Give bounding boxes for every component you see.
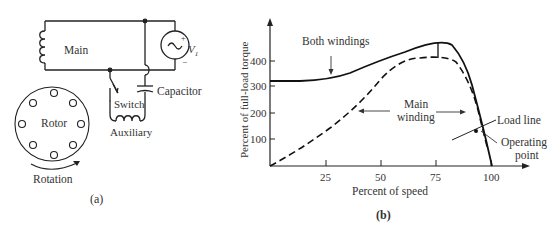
panel-a-caption: (a) xyxy=(90,193,103,205)
y-axis-label: Percent of full-load torque xyxy=(238,42,250,158)
switch-label: Switch xyxy=(114,99,145,110)
x-axis-arrow-icon xyxy=(522,163,530,169)
main-winding-annotation-line2: winding xyxy=(397,112,435,124)
y-tick-400: 400 xyxy=(250,56,267,67)
operating-point-annotation-line2: point xyxy=(515,150,539,162)
figure-canvas xyxy=(0,0,559,229)
source-voltage-symbol: V xyxy=(188,43,195,55)
rotor-label: Rotor xyxy=(41,118,67,130)
rotation-label: Rotation xyxy=(33,174,73,186)
panel-b-caption: (b) xyxy=(376,209,391,221)
main-winding-icon xyxy=(40,31,45,63)
x-tick-25: 25 xyxy=(320,172,331,183)
auxiliary-winding-icon xyxy=(116,116,140,121)
main-winding-label: Main xyxy=(64,45,88,57)
x-tick-75: 75 xyxy=(430,172,441,183)
x-tick-50: 50 xyxy=(375,172,386,183)
operating-point-marker xyxy=(474,129,478,133)
auxiliary-winding-label: Auxiliary xyxy=(110,127,152,138)
source-voltage-label: V1 xyxy=(188,44,198,58)
source-voltage-subscript: 1 xyxy=(195,50,199,58)
minus-sign: − xyxy=(182,58,187,67)
y-axis-arrow-icon xyxy=(267,18,273,26)
y-tick-300: 300 xyxy=(250,81,267,92)
axis-ticks xyxy=(270,61,491,166)
both-windings-annotation: Both windings xyxy=(302,36,369,48)
both-windings-curve xyxy=(270,43,492,166)
x-axis-label: Percent of speed xyxy=(352,186,428,198)
y-tick-100: 100 xyxy=(250,134,267,145)
plus-sign: + xyxy=(181,35,186,43)
capacitor-label: Capacitor xyxy=(157,86,202,98)
rotation-arrow-icon xyxy=(31,161,80,169)
x-tick-100: 100 xyxy=(483,172,500,183)
main-winding-annotation-line1: Main xyxy=(404,99,428,111)
operating-point-annotation-line1: Operating xyxy=(501,137,547,149)
load-line-annotation: Load line xyxy=(497,115,541,127)
y-tick-200: 200 xyxy=(250,108,267,119)
